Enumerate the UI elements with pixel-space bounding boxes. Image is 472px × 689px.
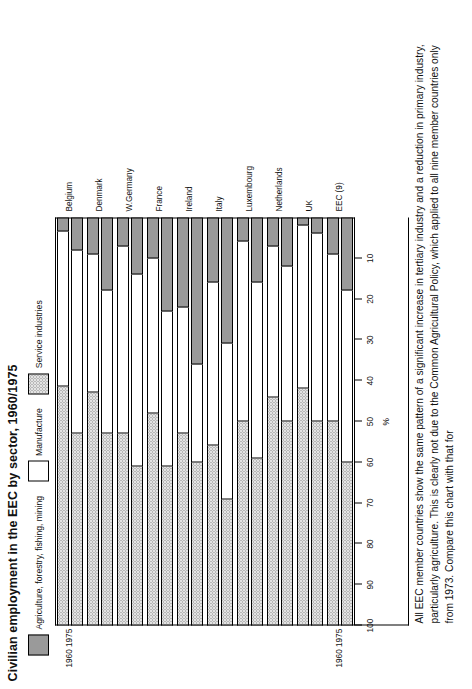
bar-segment-service: [297, 388, 309, 625]
bar-w-germany-1975: [117, 217, 129, 625]
bar-segment-service: [161, 466, 173, 625]
bar-segment-manufacture: [297, 225, 309, 388]
bar-segment-service: [281, 421, 293, 625]
bar-segment-service: [237, 421, 249, 625]
legend-label-service: Service industries: [34, 300, 44, 368]
legend-swatch-agriculture-icon: [28, 634, 49, 655]
bar-segment-manufacture: [237, 241, 249, 421]
chart-legend: Agriculture, forestry, fishing, mining M…: [28, 286, 49, 655]
bar-segment-manufacture: [221, 344, 233, 499]
bar-segment-service: [177, 433, 189, 625]
bar-segment-service: [311, 421, 323, 625]
bar-segment-service: [57, 386, 69, 625]
legend-swatch-service-icon: [28, 373, 49, 394]
country-group: [265, 217, 295, 625]
bar-segment-service: [131, 466, 143, 625]
bar-segment-service: [87, 392, 99, 625]
bar-eec-9--1975: [327, 217, 339, 625]
bar-segment-manufacture: [147, 258, 159, 413]
bar-italy-1960: [221, 217, 233, 625]
chart-title: Civilian employment in the EEC by sector…: [6, 364, 20, 681]
bar-segment-manufacture: [131, 274, 143, 466]
bar-segment-manufacture: [251, 282, 263, 457]
bar-segment-service: [267, 397, 279, 625]
bar-segment-service: [147, 413, 159, 625]
bar-segment-agriculture: [147, 217, 159, 258]
bar-segment-manufacture: [191, 364, 203, 462]
bar-luxembourg-1960: [251, 217, 263, 625]
bar-segment-service: [341, 462, 353, 625]
bar-segment-agriculture: [221, 217, 233, 343]
year-label: 1960 1975: [65, 628, 74, 667]
bar-segment-manufacture: [341, 290, 353, 461]
bar-groups: [55, 217, 355, 625]
country-group: [205, 217, 235, 625]
bar-segment-agriculture: [57, 217, 69, 231]
country-group: [145, 217, 175, 625]
bar-segment-agriculture: [131, 217, 143, 274]
bar-denmark-1975: [87, 217, 99, 625]
country-group: [85, 217, 115, 625]
bar-segment-agriculture: [117, 217, 129, 246]
country-group: [235, 217, 265, 625]
bar-w-germany-1960: [131, 217, 143, 625]
year-label: 1960 1975: [335, 628, 344, 667]
country-group: [55, 217, 85, 625]
chart-caption: All EEC member countries show the same p…: [412, 23, 457, 623]
bar-italy-1975: [207, 217, 219, 625]
bar-segment-agriculture: [177, 217, 189, 307]
bar-segment-agriculture: [341, 217, 353, 290]
legend-label-manufacture: Manufacture: [34, 408, 44, 456]
bar-segment-manufacture: [281, 266, 293, 421]
bar-segment-manufacture: [71, 250, 83, 434]
bar-segment-manufacture: [87, 254, 99, 393]
bar-segment-agriculture: [251, 217, 263, 282]
bar-segment-manufacture: [57, 231, 69, 386]
bar-segment-agriculture: [297, 217, 309, 225]
legend-item-service: Service industries: [28, 300, 49, 394]
bar-netherlands-1975: [267, 217, 279, 625]
chart-canvas: Civilian employment in the EEC by sector…: [0, 0, 472, 689]
bar-ireland-1960: [191, 217, 203, 625]
bar-segment-service: [327, 421, 339, 625]
bar-segment-service: [251, 458, 263, 625]
bar-segment-agriculture: [207, 217, 219, 282]
bar-segment-agriculture: [237, 217, 249, 241]
bar-ireland-1975: [177, 217, 189, 625]
bar-segment-service: [207, 445, 219, 625]
bar-segment-agriculture: [327, 217, 339, 254]
bar-segment-manufacture: [117, 246, 129, 434]
bar-segment-service: [117, 433, 129, 625]
legend-label-agriculture: Agriculture, forestry, fishing, mining: [34, 495, 44, 629]
bar-segment-manufacture: [267, 246, 279, 397]
bar-segment-agriculture: [191, 217, 203, 364]
bar-segment-service: [191, 462, 203, 625]
bar-segment-manufacture: [161, 311, 173, 466]
bar-segment-manufacture: [207, 282, 219, 445]
bar-belgium-1975: [57, 217, 69, 625]
bar-belgium-1960: [71, 217, 83, 625]
country-group: [295, 217, 325, 625]
country-group: [325, 217, 355, 625]
bar-segment-service: [101, 433, 113, 625]
bar-segment-manufacture: [177, 307, 189, 433]
bar-uk-1975: [297, 217, 309, 625]
bar-segment-agriculture: [281, 217, 293, 266]
y-axis-title: %: [381, 418, 391, 425]
bar-segment-service: [71, 433, 83, 625]
bar-netherlands-1960: [281, 217, 293, 625]
bar-segment-agriculture: [71, 217, 83, 250]
legend-item-manufacture: Manufacture: [28, 408, 49, 482]
bar-segment-manufacture: [101, 290, 113, 433]
bar-france-1960: [161, 217, 173, 625]
bar-eec-9--1960: [341, 217, 353, 625]
bar-france-1975: [147, 217, 159, 625]
bar-segment-agriculture: [311, 217, 323, 233]
bar-segment-manufacture: [327, 254, 339, 421]
bar-segment-agriculture: [101, 217, 113, 290]
legend-swatch-manufacture-icon: [28, 460, 49, 481]
bar-segment-agriculture: [267, 217, 279, 246]
country-group: [175, 217, 205, 625]
country-group: [115, 217, 145, 625]
bar-denmark-1960: [101, 217, 113, 625]
